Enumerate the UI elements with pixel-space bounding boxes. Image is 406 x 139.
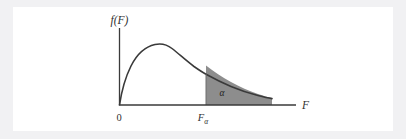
figure-root: f(F) F 0 Fα α <box>0 0 406 139</box>
y-axis-label: f(F) <box>111 14 129 27</box>
x-axis-label: F <box>301 99 310 111</box>
origin-tick-label: 0 <box>116 112 121 123</box>
critical-value-label: Fα <box>197 112 209 126</box>
critical-value-label-subscript: α <box>204 117 209 126</box>
tail-shaded-region <box>206 66 272 106</box>
f-distribution-chart: f(F) F 0 Fα α <box>0 0 406 139</box>
